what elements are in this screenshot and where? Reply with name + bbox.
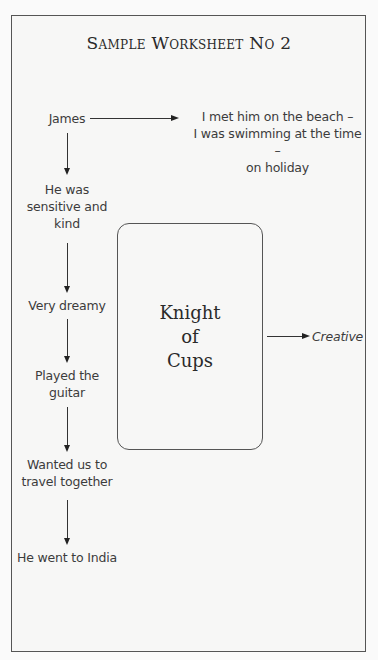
- node-2-line-1: Very dreamy: [22, 297, 112, 314]
- node-james: James: [42, 110, 92, 127]
- arrow-4-line: [67, 407, 68, 445]
- arrow-card-to-creative-line: [267, 336, 303, 337]
- node-james-label: James: [49, 111, 86, 126]
- beach-note-line-1: I met him on the beach –: [190, 108, 365, 125]
- arrow-2-line: [67, 243, 68, 287]
- card-line-3: Cups: [159, 349, 220, 373]
- arrow-1-head: [64, 168, 70, 175]
- creative-label: Creative: [312, 329, 363, 344]
- node-creative: Creative: [312, 328, 364, 345]
- worksheet-title: Sample Worksheet No 2: [0, 33, 378, 53]
- node-1-line-2: sensitive and: [22, 198, 112, 215]
- node-sensitive-kind: He was sensitive and kind: [22, 181, 112, 232]
- node-went-to-india: He went to India: [12, 549, 122, 566]
- node-3-line-1: Played the: [22, 367, 112, 384]
- node-very-dreamy: Very dreamy: [22, 297, 112, 314]
- card-line-1: Knight: [159, 301, 220, 325]
- arrow-card-to-creative-head: [302, 333, 310, 339]
- arrow-4-head: [64, 445, 70, 452]
- arrow-james-to-note-head: [171, 115, 179, 121]
- arrow-5-line: [67, 500, 68, 538]
- arrow-3-head: [64, 356, 70, 363]
- arrow-1-line: [67, 133, 68, 168]
- beach-note-line-2: I was swimming at the time –: [190, 125, 365, 159]
- arrow-5-head: [64, 538, 70, 545]
- node-4-line-2: travel together: [14, 473, 120, 490]
- node-5-line-1: He went to India: [12, 549, 122, 566]
- arrow-james-to-note-line: [90, 118, 172, 119]
- tarot-card-box: Knight of Cups: [117, 223, 263, 450]
- node-1-line-3: kind: [22, 215, 112, 232]
- arrow-2-head: [64, 286, 70, 293]
- node-beach-note: I met him on the beach – I was swimming …: [190, 108, 365, 176]
- beach-note-line-3: on holiday: [190, 159, 365, 176]
- node-3-line-2: guitar: [22, 384, 112, 401]
- card-line-2: of: [159, 325, 220, 349]
- node-played-guitar: Played the guitar: [22, 367, 112, 401]
- node-1-line-1: He was: [22, 181, 112, 198]
- node-travel-together: Wanted us to travel together: [14, 456, 120, 490]
- node-4-line-1: Wanted us to: [14, 456, 120, 473]
- arrow-3-line: [67, 319, 68, 356]
